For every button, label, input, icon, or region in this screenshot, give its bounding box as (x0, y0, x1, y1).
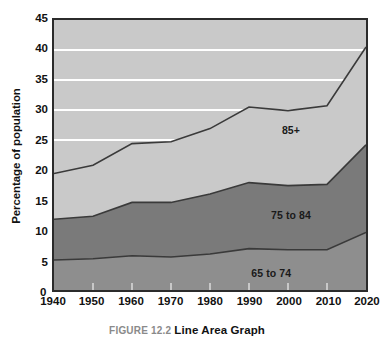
series-label-75-to-84: 75 to 84 (271, 209, 311, 221)
series-label-85plus: 85+ (282, 124, 300, 136)
plot-area (52, 18, 368, 292)
y-axis-tick-30: 30 (35, 103, 48, 115)
figure-caption: FIGURE 12.2Line Area Graph (0, 320, 374, 338)
x-axis-tick-2020: 2020 (354, 295, 380, 307)
x-axis-tick-1960: 1960 (118, 295, 144, 307)
y-axis-tick-15: 15 (35, 195, 48, 207)
area-chart-svg (54, 20, 366, 290)
x-axis-tick-1950: 1950 (79, 295, 105, 307)
x-axis-tick-1970: 1970 (158, 295, 184, 307)
x-axis-tick-labels: 194019501960197019801990200020102020 (52, 295, 368, 311)
y-axis-tick-labels: 51015202530354045 (18, 18, 48, 292)
caption-title: Line Area Graph (174, 324, 265, 336)
y-axis-tick-35: 35 (35, 73, 48, 85)
y-axis-tick-10: 10 (35, 225, 48, 237)
x-axis-tick-2010: 2010 (316, 295, 342, 307)
x-axis-tick-1980: 1980 (197, 295, 223, 307)
y-axis-tick-45: 45 (35, 12, 48, 24)
y-axis-tick-20: 20 (35, 164, 48, 176)
y-axis-tick-5: 5 (42, 256, 48, 268)
x-axis-tick-1940: 1940 (40, 295, 66, 307)
y-axis-tick-40: 40 (35, 42, 48, 54)
y-axis-tick-25: 25 (35, 134, 48, 146)
x-axis-tick-2000: 2000 (276, 295, 302, 307)
caption-figure-number: FIGURE 12.2 (109, 325, 171, 336)
series-label-65-to-74: 65 to 74 (251, 267, 291, 279)
x-axis-tick-1990: 1990 (237, 295, 263, 307)
